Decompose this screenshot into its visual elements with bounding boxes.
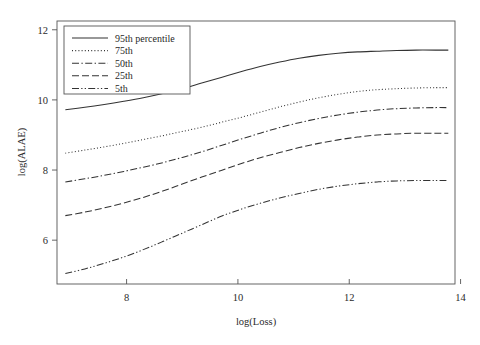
x-tick-label-10: 10	[233, 292, 244, 303]
legend-label-25th: 25th	[115, 70, 133, 81]
x-tick-label-8: 8	[124, 292, 129, 303]
legend-label-5th: 5th	[115, 83, 128, 94]
chart-figure: 8101214 681012 log(Loss) log(ALAE) 95th …	[0, 0, 480, 345]
x-tick-label-14: 14	[455, 292, 466, 303]
y-tick-label-6: 6	[43, 235, 48, 246]
legend-label-50th: 50th	[115, 58, 133, 69]
quantile-regression-chart: 8101214 681012 log(Loss) log(ALAE) 95th …	[0, 0, 480, 345]
curve-50th	[65, 108, 448, 182]
y-tick-label-8: 8	[43, 165, 48, 176]
curve-5th	[65, 181, 448, 274]
legend: 95th percentile75th50th25th5th	[64, 26, 190, 94]
curve-75th	[65, 88, 448, 154]
x-tick-label-12: 12	[344, 292, 355, 303]
x-axis-title: log(Loss)	[236, 316, 277, 328]
curve-25th	[65, 133, 448, 215]
legend-label-95th-percentile: 95th percentile	[115, 33, 175, 44]
y-axis-ticks	[52, 30, 57, 240]
y-axis-tick-labels: 681012	[38, 25, 49, 246]
x-axis-ticks	[127, 279, 461, 284]
y-tick-label-12: 12	[38, 25, 49, 36]
y-tick-label-10: 10	[38, 95, 49, 106]
y-axis-title: log(ALAE)	[16, 127, 28, 176]
x-axis-tick-labels: 8101214	[124, 292, 467, 303]
legend-label-75th: 75th	[115, 45, 133, 56]
